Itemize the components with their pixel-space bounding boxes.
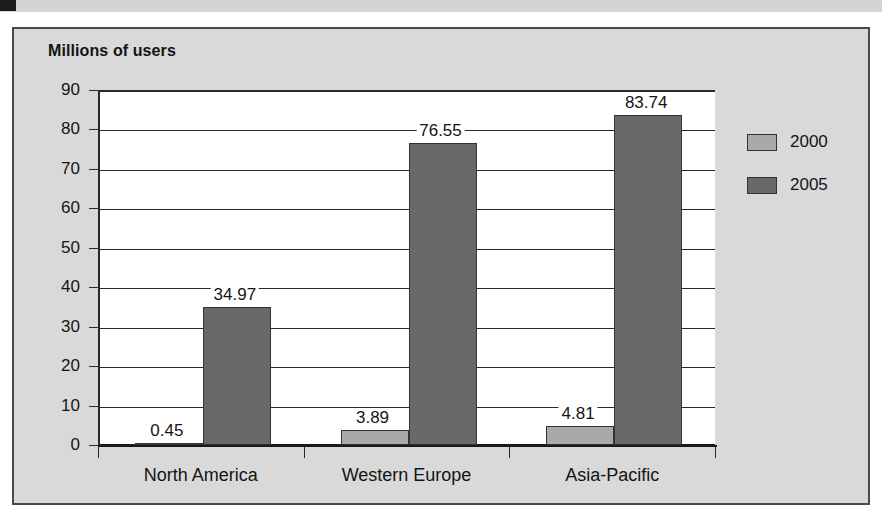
y-axis-label: 0 — [34, 435, 80, 455]
legend-label-2000: 2000 — [790, 132, 828, 152]
x-tick — [715, 447, 716, 458]
bar-value-label: 83.74 — [622, 94, 671, 112]
x-tick — [98, 447, 99, 458]
y-tick-90 — [89, 90, 98, 91]
y-tick-50 — [89, 248, 98, 249]
legend-item-2000[interactable]: 2000 — [747, 132, 828, 152]
chart-legend: 2000 2005 — [747, 132, 828, 218]
y-tick-0 — [89, 445, 98, 446]
y-axis-label: 30 — [34, 317, 80, 337]
bar-2000-asia-pacific[interactable] — [546, 426, 614, 445]
bar-2005-north-america[interactable] — [203, 307, 271, 445]
y-tick-70 — [89, 169, 98, 170]
bar-value-label: 0.45 — [147, 422, 186, 440]
x-tick — [509, 447, 510, 458]
bar-2005-western-europe[interactable] — [409, 143, 477, 445]
bar-value-label: 4.81 — [559, 405, 598, 423]
top-decorative-strip — [0, 0, 882, 12]
gridline-90 — [100, 91, 715, 92]
bar-value-label: 76.55 — [416, 122, 465, 140]
bar-2005-asia-pacific[interactable] — [614, 115, 682, 445]
legend-swatch-2000 — [747, 134, 777, 151]
bar-value-label: 34.97 — [211, 286, 260, 304]
x-axis-label-western-europe: Western Europe — [342, 465, 472, 486]
chart-title: Millions of users — [48, 42, 176, 60]
y-tick-10 — [89, 406, 98, 407]
x-axis-label-asia-pacific: Asia-Pacific — [565, 465, 659, 486]
corner-mark — [0, 0, 16, 11]
bar-2000-western-europe[interactable] — [341, 430, 409, 445]
y-axis-label: 60 — [34, 198, 80, 218]
y-tick-60 — [89, 208, 98, 209]
y-axis-label: 80 — [34, 119, 80, 139]
x-axis-label-north-america: North America — [144, 465, 258, 486]
y-axis-label: 70 — [34, 159, 80, 179]
y-tick-30 — [89, 327, 98, 328]
y-tick-80 — [89, 129, 98, 130]
x-tick — [304, 447, 305, 458]
plot-area — [98, 90, 715, 445]
bar-value-label: 3.89 — [353, 409, 392, 427]
chart-figure: Millions of users 2000 2005 010203040506… — [12, 27, 870, 505]
y-tick-20 — [89, 366, 98, 367]
y-axis-label: 40 — [34, 277, 80, 297]
legend-label-2005: 2005 — [790, 175, 828, 195]
y-axis-label: 10 — [34, 396, 80, 416]
y-axis-label: 90 — [34, 80, 80, 100]
x-axis-line — [98, 445, 717, 447]
y-axis-label: 50 — [34, 238, 80, 258]
legend-swatch-2005 — [747, 177, 777, 194]
y-tick-40 — [89, 287, 98, 288]
legend-item-2005[interactable]: 2005 — [747, 175, 828, 195]
y-axis-label: 20 — [34, 356, 80, 376]
